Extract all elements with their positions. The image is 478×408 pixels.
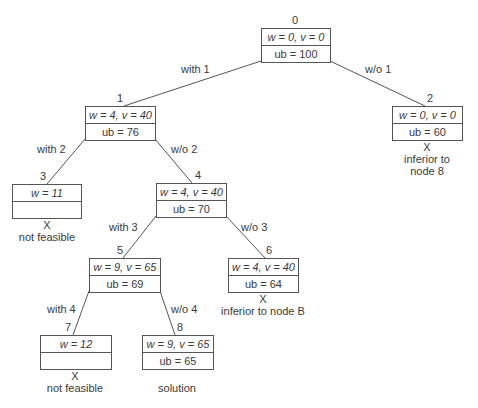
edge-label-without-1: w/o 1	[365, 63, 391, 75]
node-3-upper-bound	[13, 201, 81, 218]
node-1-upper-bound: ub = 76	[86, 123, 155, 140]
node-2-note: inferior to node 8	[382, 153, 472, 177]
node-7-state: w = 12	[41, 336, 111, 352]
node-7-note: not feasible	[35, 382, 115, 394]
edge-label-with-3: with 3	[109, 221, 138, 233]
node-8-upper-bound: ub = 65	[143, 352, 213, 369]
node-7: w = 12	[40, 335, 112, 370]
node-1-id: 1	[110, 92, 130, 104]
edge-label-without-3: w/o 3	[241, 221, 267, 233]
node-3-id: 3	[33, 170, 53, 182]
node-5-upper-bound: ub = 69	[90, 275, 160, 292]
node-6-note: inferior to node B	[213, 305, 313, 317]
edge-label-with-4: with 4	[47, 303, 76, 315]
node-5: w = 9, v = 65 ub = 69	[89, 258, 161, 293]
node-4-upper-bound: ub = 70	[157, 200, 226, 217]
edge-label-without-2: w/o 2	[171, 143, 197, 155]
node-6: w = 4, v = 40 ub = 64	[228, 258, 299, 293]
node-1-state: w = 4, v = 40	[86, 107, 155, 123]
node-2-state: w = 0, v = 0	[393, 107, 462, 123]
node-6-state: w = 4, v = 40	[229, 259, 298, 275]
node-0-state: w = 0, v = 0	[262, 29, 330, 45]
node-6-pruned-mark: X	[248, 293, 278, 305]
node-7-pruned-mark: X	[60, 370, 90, 382]
node-7-upper-bound	[41, 352, 111, 369]
node-0-upper-bound: ub = 100	[262, 45, 330, 62]
node-3-note: not feasible	[7, 231, 87, 243]
node-3: w = 11	[12, 184, 82, 219]
node-2-id: 2	[420, 92, 440, 104]
node-6-id: 6	[259, 244, 279, 256]
node-4: w = 4, v = 40 ub = 70	[156, 183, 227, 218]
node-8-state: w = 9, v = 65	[143, 336, 213, 352]
node-2-upper-bound: ub = 60	[393, 123, 462, 140]
node-2-pruned-mark: X	[412, 141, 442, 153]
edge-label-with-2: with 2	[37, 143, 66, 155]
node-7-id: 7	[58, 321, 78, 333]
node-4-id: 4	[188, 169, 208, 181]
edge-label-with-1: with 1	[181, 63, 210, 75]
node-8-id: 8	[170, 321, 190, 333]
node-6-upper-bound: ub = 64	[229, 275, 298, 292]
node-2: w = 0, v = 0 ub = 60	[392, 106, 463, 141]
edge-label-without-4: w/o 4	[171, 303, 197, 315]
node-8-solution-label: solution	[137, 382, 217, 394]
node-0-id: 0	[285, 14, 305, 26]
node-8: w = 9, v = 65 ub = 65	[142, 335, 214, 370]
node-4-state: w = 4, v = 40	[157, 184, 226, 200]
node-5-id: 5	[110, 244, 130, 256]
node-5-state: w = 9, v = 65	[90, 259, 160, 275]
node-0: w = 0, v = 0 ub = 100	[261, 28, 331, 63]
node-1: w = 4, v = 40 ub = 76	[85, 106, 156, 141]
node-3-pruned-mark: X	[32, 219, 62, 231]
node-3-state: w = 11	[13, 185, 81, 201]
